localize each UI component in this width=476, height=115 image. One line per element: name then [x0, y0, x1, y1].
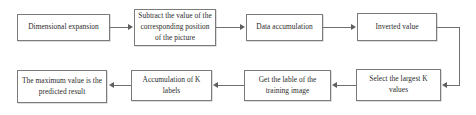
- connector-accumulation-k-to-maximum-value: [114, 85, 131, 86]
- connector-dimensional-to-subtract: [110, 27, 129, 28]
- flow-node-inverted-value: Inverted value: [357, 13, 437, 41]
- arrowhead-to-accumulation-k-labels: [213, 82, 218, 88]
- connector-inverted-to-wrap-top: [437, 27, 460, 28]
- flow-node-data-accumulation: Data accumulation: [246, 14, 323, 41]
- flow-node-label: Subtract the value of the corresponding …: [138, 11, 212, 43]
- flow-node-label: Get the lable of the training image: [248, 75, 327, 96]
- connector-data-accumulation-to-inverted: [323, 27, 351, 28]
- flow-node-label: Dimensional expansion: [21, 22, 106, 33]
- arrowhead-to-data-accumulation: [240, 24, 245, 30]
- flow-node-select-largest-k: Select the largest K values: [356, 69, 441, 101]
- arrowhead-to-inverted-value: [351, 24, 356, 30]
- flowchart-diagram: Dimensional expansion Subtract the value…: [0, 0, 476, 115]
- arrowhead-to-subtract: [128, 24, 133, 30]
- arrowhead-to-maximum-value: [109, 82, 114, 88]
- arrowhead-to-get-label: [332, 82, 337, 88]
- flow-node-label: Data accumulation: [250, 22, 319, 33]
- connector-wrap-vertical: [459, 27, 460, 85]
- flow-node-label: Inverted value: [361, 22, 433, 33]
- connector-wrap-to-select-k: [447, 85, 460, 86]
- flow-node-maximum-value-predicted: The maximum value is the predicted resul…: [17, 70, 107, 103]
- flow-node-get-label-training-image: Get the lable of the training image: [244, 70, 331, 101]
- flow-node-dimensional-expansion: Dimensional expansion: [17, 14, 110, 41]
- connector-get-label-to-accumulation-k: [218, 85, 244, 86]
- arrowhead-to-select-largest-k: [442, 82, 447, 88]
- flow-node-label: Select the largest K values: [360, 74, 437, 95]
- connector-subtract-to-data-accumulation: [216, 27, 240, 28]
- flow-node-subtract-value: Subtract the value of the corresponding …: [134, 9, 216, 46]
- flow-node-label: Accumulation of K labels: [135, 75, 208, 96]
- flow-node-accumulation-k-labels: Accumulation of K labels: [131, 70, 212, 101]
- flow-node-label: The maximum value is the predicted resul…: [21, 76, 103, 97]
- connector-select-k-to-get-label: [337, 85, 356, 86]
